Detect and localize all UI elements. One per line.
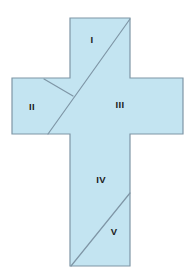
region-label-i: I <box>91 34 94 45</box>
cross-outline-shape <box>12 18 183 266</box>
region-label-ii: II <box>29 101 35 112</box>
cross-dissection-figure: I II III IV V <box>0 0 195 277</box>
figure-canvas: I II III IV V <box>0 0 195 277</box>
region-label-iv: IV <box>96 174 106 185</box>
region-label-iii: III <box>116 99 125 110</box>
region-label-v: V <box>111 226 118 237</box>
